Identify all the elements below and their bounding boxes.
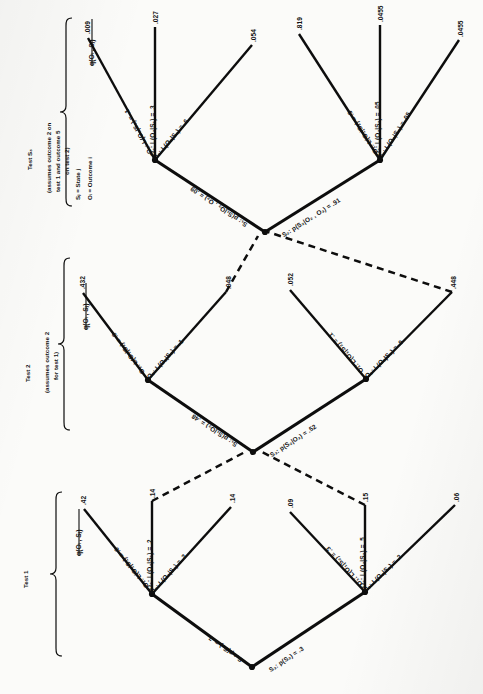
t2-s2-o1-value: .052 [287,273,294,286]
t3-s1-o2-value-text: .027 [152,11,159,24]
column-header-test2: q(Oᵢ , Sⱼ) [82,303,90,330]
legend-state-def: Sⱼ = State j [74,169,83,200]
section-title-test1-text: Test 1 [22,571,29,588]
t1-s2-o2-text: O₂: L(O₂|S₂) = .5 [359,537,366,588]
column-header-test3-text: q(Oᵢ , Sⱼ) [88,39,95,66]
t3-s1-o2-value: .027 [152,11,159,24]
section-title-test3: Test S₃ [26,149,35,170]
edge-dash-t2-s2o2-to-t3 [268,232,452,292]
t1-s1-o3-value: .14 [229,494,236,503]
t2-s1-o1-value-text: .432 [79,276,86,289]
t1-s1-o2-value: .14 [149,489,156,498]
t3-s1-o2-label: O₂: L(O₂|S₁) = .3 [150,105,157,156]
column-header-test1-text: q(Oᵢ , Sⱼ) [75,529,82,556]
node-t3-root [262,229,268,235]
legend-outcome-def-text: Oᵢ = Outcome i [86,157,93,200]
t3-s2-o3-value: .0455 [457,20,464,37]
t1-s2-o2-value-text: .15 [362,493,369,502]
t3-s2-o2-text: O₂: L(O₂|S₂) = .05 [374,101,381,156]
t3-s2-o2-value-text: .0455 [377,5,384,22]
figure-canvas: Test S₃ (assumes outcome 2 on test 1 and… [0,0,483,694]
legend-outcome-def: Oᵢ = Outcome i [86,157,95,200]
legend-state-def-text: Sⱼ = State j [74,169,81,200]
t3-s1-o1-value-text: .009 [84,21,91,34]
t2-s1-o1-value: .432 [79,276,86,289]
column-header-test3: q(Oᵢ , Sⱼ) [88,39,96,66]
t3-s1-o3-value: .054 [250,29,257,42]
t3-s1-o1-value: .009 [84,21,91,34]
brace-test1 [50,492,62,656]
t1-s2-o3-value: .06 [453,493,460,502]
column-header-test2-text: q(Oᵢ , Sⱼ) [82,303,89,330]
t2-s1-o2-value: .048 [225,276,232,289]
section-title-test2: Test 2 [24,365,33,382]
t2-s2-o1-value-text: .052 [287,273,294,286]
edge-dash-t1-s2o2-to-t2 [262,452,365,505]
node-t1-root [249,664,255,670]
t1-s1-o1-value-text: .42 [80,496,87,505]
edge-t2-root-s2 [253,379,366,452]
t3-s2-o1-value: .819 [296,17,303,30]
section-title-test2-text: Test 2 [24,365,31,382]
edge-t1-root-s2 [252,592,365,667]
t2-s2-o2-value: .448 [450,276,457,289]
t1-s2-o3-value-text: .06 [453,493,460,502]
section-title-test3-text: Test S₃ [26,149,33,170]
t3-s2-o2-value: .0455 [377,5,384,22]
t1-s2-o2-value: .15 [362,493,369,502]
t1-s1-o2-label: O₂: L(O₂|S₁) = .2 [147,539,154,590]
t3-s1-o2-text: O₂: L(O₂|S₁) = .3 [149,105,156,156]
section-subtitle-test2: (assumes outcome 2 for test 1) [34,332,70,400]
t1-s1-o2-value-text: .14 [149,489,156,498]
t1-s1-o3-value-text: .14 [229,494,236,503]
column-header-test1: q(Oᵢ , Sⱼ) [75,529,83,556]
t1-s1-o1-value: .42 [80,496,87,505]
edge-t3-root-s2 [265,160,380,232]
tree-lines [0,0,483,694]
section-subtitle-test2-text: (assumes outcome 2 for test 1) [43,332,59,393]
node-t2-root [250,449,256,455]
t1-s2-o1-value-text: .09 [287,499,294,508]
t1-s2-o2-label: O₂: L(O₂|S₂) = .5 [360,537,367,588]
t2-s2-o2-value-text: .448 [450,276,457,289]
t3-s2-o1-value-text: .819 [296,17,303,30]
section-title-test1: Test 1 [22,571,31,588]
t3-s2-o3-value-text: .0455 [457,20,464,37]
t1-s2-o1-value: .09 [287,499,294,508]
section-subtitle-test3-text: (assumes outcome 2 on test 1 and outcome… [45,123,70,194]
t3-s1-o3-value-text: .054 [250,29,257,42]
t2-s1-o2-value-text: .048 [225,276,232,289]
t1-s1-o2-text: O₂: L(O₂|S₁) = .2 [146,539,153,590]
